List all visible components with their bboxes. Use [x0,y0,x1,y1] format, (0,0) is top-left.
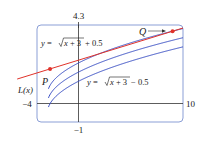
point-Q-label: Q [139,26,147,37]
line-L-label: L(x) [17,85,33,95]
point-P-dot [48,67,52,71]
x-max-label: 10 [186,99,196,109]
q-arrow-head-icon [162,29,166,32]
lower-eq-text: y = [86,77,98,87]
upper-equation-label: y = x + 3 + 0.5 [40,38,103,48]
upper-eq-suffix: + 0.5 [85,38,103,48]
upper-eq-radicand: x + 3 [63,38,81,48]
upper-eq-text: y = [40,38,52,48]
L-text: L(x) [17,85,33,95]
x-min-label: −4 [22,99,32,109]
point-Q-dot [171,29,175,33]
function-graph: 4.3 −1 −4 10 L(x) P Q y = x + 3 + 0.5 y … [0,0,205,143]
y-max-label: 4.3 [73,11,85,21]
lower-eq-suffix: − 0.5 [131,77,149,87]
lower-eq-radicand: x + 3 [109,77,127,87]
graph-frame [37,25,183,122]
y-min-label: −1 [74,125,84,135]
lower-equation-label: y = x + 3 − 0.5 [86,77,149,87]
point-P-label: P [41,76,48,87]
